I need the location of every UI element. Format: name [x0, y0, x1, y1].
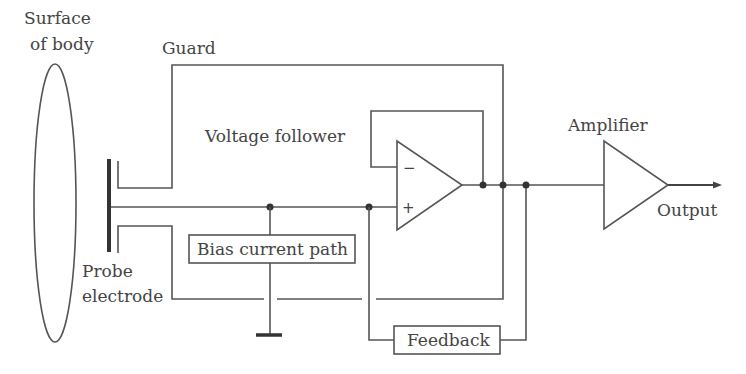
- junction-dot: [500, 182, 507, 189]
- guard-label: Guard: [162, 38, 216, 58]
- surface-label-line1: Surface: [24, 8, 91, 28]
- junction-dot: [523, 182, 530, 189]
- guard-lower-wire-return: [376, 185, 503, 299]
- output-arrow-icon: [713, 182, 722, 189]
- feedback-wire-right: [500, 185, 526, 340]
- surface-label-line2: of body: [30, 34, 94, 54]
- follower-feedback-loop: [371, 111, 483, 185]
- surface-of-body-ellipse: [34, 64, 76, 342]
- probe-label-line2: electrode: [82, 286, 163, 306]
- output-label: Output: [657, 200, 718, 220]
- minus-sign: −: [403, 159, 416, 177]
- probe-label-line1: Probe: [82, 261, 133, 281]
- amplifier-label: Amplifier: [567, 115, 649, 135]
- feedback-label: Feedback: [407, 330, 490, 350]
- voltage-follower-label: Voltage follower: [204, 126, 346, 146]
- junction-dot: [480, 182, 487, 189]
- feedback-wire-left: [369, 207, 394, 340]
- bias-current-path-label: Bias current path: [197, 239, 348, 259]
- circuit-diagram: Surface of body Probe electrode Guard Bi…: [0, 0, 746, 374]
- plus-sign: +: [402, 199, 415, 217]
